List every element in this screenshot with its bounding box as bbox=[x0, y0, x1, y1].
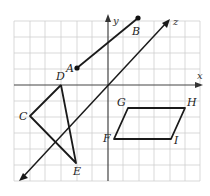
label-e: E bbox=[72, 165, 81, 178]
label-c: C bbox=[19, 110, 28, 123]
label-d: D bbox=[55, 70, 65, 83]
label-i: I bbox=[173, 134, 179, 147]
coordinate-diagram: x y z A B D C E F G H I bbox=[0, 0, 210, 196]
z-line-label: z bbox=[172, 16, 179, 27]
label-b: B bbox=[131, 25, 140, 38]
arrowhead-icon bbox=[19, 173, 28, 181]
point-a-dot bbox=[74, 65, 79, 70]
label-f: F bbox=[102, 132, 111, 145]
label-g: G bbox=[117, 96, 126, 109]
point-b-dot bbox=[135, 15, 140, 20]
x-axis-label: x bbox=[197, 70, 203, 81]
y-axis bbox=[105, 14, 111, 181]
triangle-cde bbox=[30, 85, 76, 163]
line-z bbox=[19, 19, 170, 181]
y-axis-label: y bbox=[112, 15, 119, 26]
label-h: H bbox=[186, 96, 197, 109]
label-a: A bbox=[65, 62, 74, 75]
